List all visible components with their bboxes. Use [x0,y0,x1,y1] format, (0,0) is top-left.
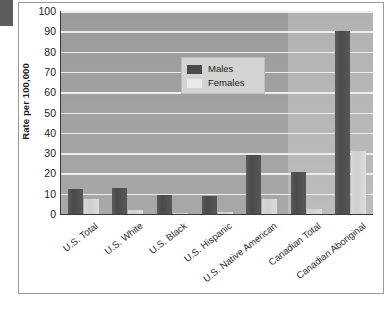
figure-page: Rate per 100,000 1009080706050403020100 … [0,0,392,314]
bar-females-u-s-hispanic [218,212,233,214]
legend-label-males: Males [208,64,233,74]
legend-label-females: Females [208,78,244,88]
legend: Males Females [181,57,265,94]
bar-females-u-s-total [84,199,99,214]
y-tick-label-30: 30 [2,147,56,159]
y-tick-label-40: 40 [2,127,56,139]
bar-males-u-s-black [157,195,172,214]
bar-males-canadian-total [291,172,306,214]
gridline-10 [61,194,373,196]
bar-females-u-s-native-american [262,199,277,214]
bar-females-canadian-aboriginal [351,151,366,214]
y-tick-label-50: 50 [2,107,56,119]
y-axis-ticks: 1009080706050403020100 [0,11,56,214]
gridline-40 [61,133,373,135]
bar-males-u-s-white [112,188,127,214]
gridline-80 [61,52,373,54]
y-tick-label-10: 10 [2,188,56,200]
bar-males-u-s-total [68,189,83,214]
legend-item-males: Males [187,62,259,76]
gridline-100 [61,11,373,13]
bar-males-u-s-native-american [246,155,261,214]
bar-males-canadian-aboriginal [335,31,350,214]
gridline-50 [61,113,373,115]
bar-males-u-s-hispanic [202,196,217,214]
y-tick-label-20: 20 [2,167,56,179]
plot-area: Males Females [60,11,373,215]
bar-females-u-s-white [128,210,143,214]
gridline-90 [61,31,373,33]
y-tick-label-0: 0 [2,208,56,220]
gridline-20 [61,173,373,175]
y-tick-label-60: 60 [2,86,56,98]
y-tick-label-90: 90 [2,25,56,37]
bar-females-canadian-total [307,209,322,214]
y-tick-label-70: 70 [2,66,56,78]
legend-swatch-females-icon [187,79,202,88]
y-tick-label-100: 100 [2,5,56,17]
bar-females-u-s-black [173,213,188,214]
gridline-30 [61,153,373,155]
legend-item-females: Females [187,76,259,90]
y-tick-label-80: 80 [2,46,56,58]
legend-swatch-males-icon [187,65,202,74]
